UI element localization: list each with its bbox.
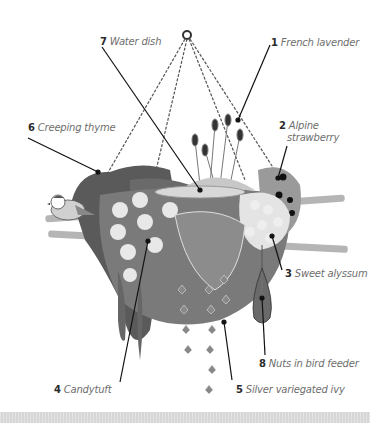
caption-band xyxy=(0,412,370,423)
label-creeping-thyme: 6Creeping thyme xyxy=(28,122,115,134)
label-french-lavender: 1French lavender xyxy=(271,37,359,49)
hook-ring-icon xyxy=(183,31,191,39)
label-nuts-in-bird-feeder: 8Nuts in bird feeder xyxy=(259,358,359,370)
label-candytuft: 4Candytuft xyxy=(54,384,111,396)
french-lavender xyxy=(192,114,243,185)
label-sweet-alyssum: 3Sweet alyssum xyxy=(285,268,367,280)
label-alpine-strawberry: 2Alpine strawberry xyxy=(279,120,339,144)
label-water-dish: 7Water dish xyxy=(100,36,161,48)
diagram-stage: 1French lavender 2Alpine strawberry 3Swe… xyxy=(0,0,374,423)
label-silver-variegated-ivy: 5Silver variegated ivy xyxy=(236,384,345,396)
